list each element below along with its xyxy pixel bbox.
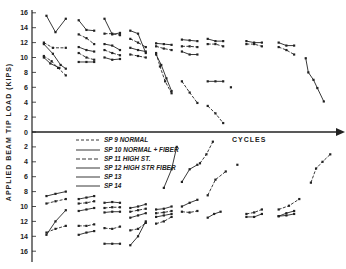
series-line bbox=[130, 221, 145, 245]
data-point bbox=[129, 47, 131, 49]
data-point bbox=[159, 65, 161, 67]
data-point bbox=[170, 216, 172, 218]
data-point bbox=[196, 164, 198, 166]
data-point bbox=[207, 43, 209, 45]
x-axis-arrow-icon bbox=[336, 128, 345, 136]
data-point bbox=[170, 205, 172, 207]
x-axis-label: CYCLES bbox=[232, 136, 266, 143]
data-point bbox=[253, 216, 255, 218]
series-dn-g7-c bbox=[236, 164, 238, 166]
data-point bbox=[103, 227, 105, 229]
series-up-g6-c bbox=[181, 50, 199, 55]
data-point bbox=[207, 194, 209, 196]
series-dn-g2-c bbox=[78, 207, 96, 212]
data-point bbox=[65, 209, 67, 211]
series-dn-g4-a bbox=[129, 203, 147, 209]
series-dn-g6-a bbox=[181, 199, 199, 208]
data-point bbox=[119, 58, 121, 60]
data-point bbox=[155, 42, 157, 44]
data-point bbox=[137, 214, 139, 216]
series-line bbox=[279, 199, 300, 209]
series-up-g6-b bbox=[181, 45, 199, 48]
legend-item: SP 10 NORMAL + FIBER bbox=[76, 146, 179, 153]
data-point bbox=[93, 200, 95, 202]
data-point bbox=[119, 49, 121, 51]
data-point bbox=[137, 33, 139, 35]
data-point bbox=[214, 40, 216, 42]
series-dn-g2-a bbox=[78, 195, 96, 200]
data-point bbox=[214, 80, 216, 82]
data-point bbox=[111, 44, 113, 46]
data-point bbox=[43, 43, 45, 45]
series-line bbox=[208, 171, 226, 195]
data-point bbox=[119, 243, 121, 245]
data-point bbox=[85, 225, 87, 227]
data-point bbox=[163, 211, 165, 213]
data-point bbox=[93, 59, 95, 61]
data-point bbox=[196, 46, 198, 48]
data-point bbox=[45, 195, 47, 197]
legend-label: SP 10 NORMAL + FIBER bbox=[104, 146, 179, 153]
data-point bbox=[189, 53, 191, 55]
data-point bbox=[103, 18, 105, 20]
data-point bbox=[65, 74, 67, 76]
data-point bbox=[261, 42, 263, 44]
data-point bbox=[65, 225, 67, 227]
y-tick-label: 4 bbox=[24, 99, 28, 106]
series-dn-g3-d bbox=[103, 226, 121, 230]
series-line bbox=[156, 217, 171, 224]
series-up-g2-a bbox=[78, 19, 96, 32]
data-point bbox=[285, 214, 287, 216]
data-point bbox=[93, 207, 95, 209]
y-tick-label: 4 bbox=[24, 158, 28, 165]
data-point bbox=[85, 29, 87, 31]
series-dn-g3-c bbox=[103, 211, 121, 214]
data-point bbox=[85, 208, 87, 210]
data-point bbox=[65, 191, 67, 193]
data-point bbox=[305, 57, 307, 59]
data-point bbox=[163, 47, 165, 49]
series-dn-g7-b bbox=[207, 170, 227, 196]
y-tick-label: 2 bbox=[24, 114, 28, 121]
data-point bbox=[170, 49, 172, 51]
data-point bbox=[65, 18, 67, 20]
data-point bbox=[285, 49, 287, 51]
data-point bbox=[298, 198, 300, 200]
data-point bbox=[93, 43, 95, 45]
data-point bbox=[214, 43, 216, 45]
data-point bbox=[54, 220, 56, 222]
data-point bbox=[78, 202, 80, 204]
data-point bbox=[78, 33, 80, 35]
y-tick-label: 0 bbox=[24, 129, 28, 136]
legend-item: SP 14 bbox=[76, 182, 122, 189]
data-point bbox=[196, 210, 198, 212]
data-point bbox=[129, 53, 131, 55]
data-point bbox=[85, 49, 87, 51]
data-point bbox=[49, 62, 51, 64]
data-point bbox=[145, 203, 147, 205]
data-point bbox=[225, 170, 227, 172]
data-point bbox=[278, 208, 280, 210]
data-point bbox=[111, 211, 113, 213]
data-point bbox=[85, 61, 87, 63]
data-point bbox=[45, 231, 47, 233]
data-point bbox=[54, 31, 56, 33]
data-point bbox=[155, 208, 157, 210]
data-point bbox=[261, 213, 263, 215]
legend-label: SP 14 bbox=[104, 182, 122, 189]
data-point bbox=[52, 53, 54, 55]
data-point bbox=[137, 209, 139, 211]
data-point bbox=[312, 79, 314, 81]
series-up-g9-a bbox=[278, 42, 296, 47]
data-point bbox=[85, 231, 87, 233]
data-point bbox=[212, 141, 214, 143]
y-tick-label: 6 bbox=[24, 84, 28, 91]
data-point bbox=[78, 46, 80, 48]
series-up-g9-c bbox=[305, 57, 325, 102]
legend-item: SP 12 HIGH STR FIBER bbox=[76, 164, 176, 171]
legend-item: SP 13 bbox=[76, 173, 122, 180]
data-point bbox=[253, 43, 255, 45]
data-point bbox=[293, 213, 295, 215]
data-point bbox=[45, 15, 47, 17]
data-point bbox=[207, 38, 209, 40]
